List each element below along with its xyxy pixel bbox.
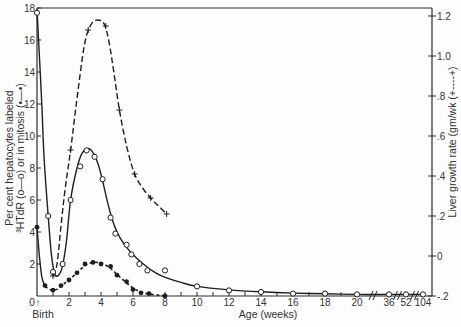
cross-marker	[116, 107, 122, 113]
y-right-tick-label: 1.0	[437, 51, 451, 62]
y-right-tick-label: 1.2	[437, 11, 451, 22]
x-tick-label: 12	[223, 297, 235, 308]
filled-circle-marker	[147, 291, 152, 296]
y-axis-left-title-line2: ³HTdR (o—o) or in mitosis (•—•)	[14, 83, 26, 233]
chart-plot: 024681012141618203652104246810121416181.…	[0, 0, 461, 327]
x-tick-label: 2	[66, 297, 72, 308]
y-left-tick-label: 2	[29, 259, 35, 270]
filled-circle-marker	[75, 270, 80, 275]
filled-circle-marker	[43, 283, 48, 288]
y-right-tick-label: 0	[437, 251, 443, 262]
filled-circle-marker	[67, 278, 72, 283]
axis-ticks: 024681012141618203652104246810121416181.…	[24, 3, 451, 308]
filled-circle-marker	[108, 264, 113, 269]
filled-circle-marker	[131, 287, 136, 292]
open-circle-marker	[258, 289, 263, 294]
y-left-tick-label: 4	[29, 227, 35, 238]
open-circle-marker	[137, 261, 142, 266]
open-circle-marker	[194, 284, 199, 289]
open-circle-marker	[78, 164, 83, 169]
series-1-curve-solid	[37, 227, 45, 286]
x-tick-label: 14	[255, 297, 267, 308]
chart-figure: 024681012141618203652104246810121416181.…	[0, 0, 461, 327]
open-circle-marker	[420, 292, 425, 297]
open-circle-marker	[34, 10, 39, 15]
open-circle-marker	[113, 231, 118, 236]
filled-circle-marker	[163, 294, 168, 299]
open-circle-marker	[403, 292, 408, 297]
filled-circle-marker	[83, 262, 88, 267]
x-tick-label: 20	[351, 297, 363, 308]
y-left-tick-label: 8	[29, 163, 35, 174]
y-right-tick-label: .2	[437, 211, 446, 222]
filled-circle-marker	[51, 288, 56, 293]
cross-marker	[68, 147, 74, 153]
series-curves	[37, 10, 423, 296]
open-circle-marker	[124, 242, 129, 247]
y-left-tick-label: 18	[24, 3, 36, 14]
x-origin-label: Birth	[32, 308, 54, 320]
x-tick-label: 0	[29, 297, 35, 308]
open-circle-marker	[68, 197, 73, 202]
open-circle-marker	[386, 292, 391, 297]
filled-circle-marker	[124, 279, 129, 284]
y-axis-right-title: Liver growth rate (gm/wk (+----+)	[446, 66, 458, 217]
series-0-curve	[37, 10, 423, 295]
y-left-tick-label: 6	[29, 195, 35, 206]
open-circle-marker	[129, 252, 134, 257]
open-circle-marker	[290, 291, 295, 296]
birth-arrow-icon: ↑	[36, 297, 41, 308]
open-circle-marker	[108, 215, 113, 220]
x-axis-title: Age (weeks)	[239, 308, 297, 320]
y-left-tick-label: 14	[24, 67, 36, 78]
x-tick-label: 4	[98, 297, 104, 308]
filled-circle-marker	[139, 290, 144, 295]
cross-marker	[132, 171, 138, 177]
y-right-tick-label: .6	[437, 131, 446, 142]
cross-marker	[85, 27, 91, 33]
filled-circle-marker	[99, 262, 104, 267]
open-circle-marker	[84, 148, 89, 153]
x-tick-label: 6	[130, 297, 136, 308]
open-circle-marker	[162, 268, 167, 273]
y-left-tick-label: 16	[24, 35, 36, 46]
x-tick-label: 52	[400, 297, 412, 308]
open-circle-marker	[354, 292, 359, 297]
x-tick-label: 104	[415, 297, 432, 308]
filled-circle-marker	[35, 225, 40, 230]
open-circle-marker	[322, 291, 327, 296]
x-tick-label: 16	[287, 297, 299, 308]
open-circle-marker	[46, 213, 51, 218]
open-circle-marker	[145, 268, 150, 273]
x-tick-label: 36	[383, 297, 395, 308]
x-tick-label: 10	[191, 297, 203, 308]
filled-circle-marker	[91, 260, 96, 265]
series-2-curve	[53, 20, 167, 276]
open-circle-marker	[92, 154, 97, 159]
series-markers	[34, 10, 425, 298]
filled-circle-marker	[115, 273, 120, 278]
open-circle-marker	[60, 261, 65, 266]
open-circle-marker	[100, 177, 105, 182]
open-circle-marker	[226, 288, 231, 293]
y-right-tick-label: .4	[437, 171, 446, 182]
y-right-tick-label: .8	[437, 91, 446, 102]
x-tick-label: 8	[162, 297, 168, 308]
x-tick-label: 18	[319, 297, 331, 308]
y-right-tick-label: -.2	[437, 291, 449, 302]
filled-circle-marker	[59, 283, 64, 288]
